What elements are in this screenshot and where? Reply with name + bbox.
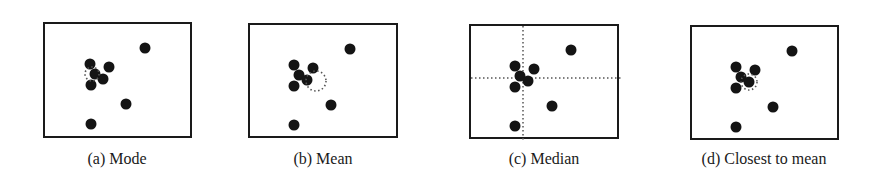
data-point [86, 119, 97, 130]
data-point [731, 83, 742, 94]
data-point [547, 101, 558, 112]
scatter-box [43, 22, 192, 138]
data-point [750, 65, 761, 76]
data-point [121, 99, 132, 110]
data-point [510, 82, 521, 93]
panel-caption: (c) Median [444, 150, 644, 168]
data-point [731, 62, 742, 73]
scatter-plot [471, 26, 621, 141]
data-point [289, 60, 300, 71]
data-point [85, 59, 96, 70]
panel-caption: (d) Closest to mean [664, 150, 864, 168]
data-point [787, 46, 798, 57]
scatter-box [469, 24, 619, 139]
data-point [289, 120, 300, 131]
data-point [308, 63, 319, 74]
panel-caption: (a) Mode [17, 150, 217, 168]
data-point [731, 122, 742, 133]
scatter-box [248, 23, 398, 138]
data-point [510, 121, 521, 132]
scatter-plot [45, 24, 194, 140]
data-point [529, 64, 540, 75]
data-point [140, 43, 151, 54]
data-point [768, 102, 779, 113]
panel-caption: (b) Mean [223, 150, 423, 168]
scatter-plot [250, 25, 400, 140]
scatter-plot [692, 27, 841, 142]
data-point [744, 77, 755, 88]
data-point [523, 76, 534, 87]
data-point [326, 100, 337, 111]
scatter-box [690, 25, 839, 140]
data-point [345, 44, 356, 55]
data-point [104, 62, 115, 73]
data-point [566, 45, 577, 56]
data-point [510, 61, 521, 72]
data-point [289, 81, 300, 92]
